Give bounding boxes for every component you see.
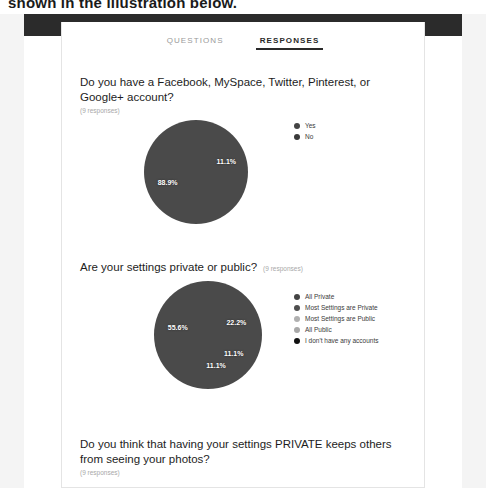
question-2-heading: Are your settings private or public? (9 … [80,260,406,275]
legend-color-dot-icon [294,305,300,311]
question-block-1: Do you have a Facebook, MySpace, Twitter… [62,51,424,224]
legend-2: All Private Most Settings are Private Mo… [262,281,379,348]
legend-2-item-3[interactable]: All Public [294,326,379,333]
legend-1-item-1[interactable]: No [294,133,316,140]
legend-2-item-1[interactable]: Most Settings are Private [294,304,379,311]
question-block-3: Do you think that having your settings P… [62,389,424,476]
pie-1-graphic [144,120,248,224]
pie-2-graphic [154,281,262,389]
legend-2-item-0[interactable]: All Private [294,293,379,300]
question-1-response-count: (9 responses) [80,107,406,114]
pie-chart-1: 88.9% 11.1% [144,120,248,224]
question-2-title: Are your settings private or public? [80,260,257,275]
question-3-title: Do you think that having your settings P… [80,437,406,467]
legend-color-dot-icon [294,316,300,322]
form-responses-card: QUESTIONS RESPONSES Do you have a Facebo… [61,22,425,488]
chart-2: 55.6% 22.2% 11.1% 11.1% All Private Most… [80,281,406,389]
pie-2-slice-label-0: 55.6% [168,323,188,330]
question-block-2: Are your settings private or public? (9 … [62,224,424,389]
legend-color-dot-icon [294,123,300,129]
tab-responses[interactable]: RESPONSES [260,36,320,50]
legend-2-label-4: I don't have any accounts [305,337,379,344]
legend-2-label-3: All Public [305,326,332,333]
legend-2-item-4[interactable]: I don't have any accounts [294,337,379,344]
page-gutter-left [0,14,24,488]
legend-1-label-0: Yes [305,122,316,129]
legend-2-label-0: All Private [305,293,334,300]
legend-2-label-1: Most Settings are Private [305,304,378,311]
pie-1-slice-label-0: 88.9% [158,179,178,186]
question-1-title: Do you have a Facebook, MySpace, Twitter… [80,75,406,105]
tab-bar: QUESTIONS RESPONSES [62,22,424,51]
pie-2-slice-label-1: 22.2% [226,318,246,325]
pie-2-slice-label-3: 11.1% [206,362,225,369]
pie-2-slice-label-2: 11.1% [224,349,243,356]
tab-questions[interactable]: QUESTIONS [167,36,224,50]
chart-1: 88.9% 11.1% Yes No [80,120,406,224]
page-caption: shown in the illustration below. [8,0,308,10]
question-3-response-count: (9 responses) [80,469,406,476]
legend-color-dot-icon [294,134,300,140]
question-2-response-count: (9 responses) [263,265,303,272]
legend-1-label-1: No [305,133,313,140]
legend-color-dot-icon [294,338,300,344]
legend-2-label-2: Most Settings are Public [305,315,375,322]
legend-2-item-2[interactable]: Most Settings are Public [294,315,379,322]
pie-chart-2: 55.6% 22.2% 11.1% 11.1% [154,281,262,389]
pie-1-slice-label-1: 11.1% [217,157,236,164]
legend-1-item-0[interactable]: Yes [294,122,316,129]
legend-color-dot-icon [294,294,300,300]
page-gutter-right [462,14,486,488]
legend-1: Yes No [248,120,316,144]
legend-color-dot-icon [294,327,300,333]
